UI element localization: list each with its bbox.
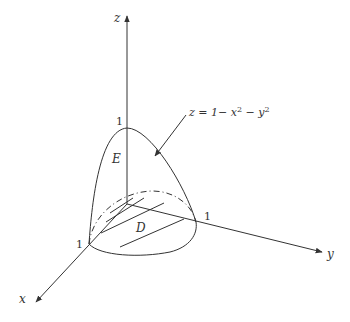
paraboloid-diagram: z y x 1 1 1 E D z = 1− x2 − y2 bbox=[0, 0, 350, 322]
surface-equation: z = 1− x2 − y2 bbox=[188, 105, 270, 119]
paraboloid-left-edge bbox=[89, 128, 127, 244]
equation-pointer bbox=[155, 115, 186, 156]
x-axis bbox=[36, 204, 127, 302]
hatch-line bbox=[101, 203, 164, 233]
domain-region-label: D bbox=[135, 221, 146, 235]
z-tick-one: 1 bbox=[116, 115, 123, 128]
z-axis-label: z bbox=[113, 11, 121, 25]
x-tick-one: 1 bbox=[76, 238, 83, 251]
hatch-line bbox=[110, 198, 133, 213]
y-axis bbox=[127, 204, 322, 252]
y-tick-one: 1 bbox=[204, 210, 211, 223]
x-axis-label: x bbox=[19, 292, 26, 306]
hatch-line bbox=[106, 198, 144, 222]
paraboloid-right-edge bbox=[127, 128, 196, 222]
y-axis-label: y bbox=[326, 247, 334, 261]
solid-region-label: E bbox=[111, 152, 121, 166]
hatch-line bbox=[120, 219, 184, 247]
